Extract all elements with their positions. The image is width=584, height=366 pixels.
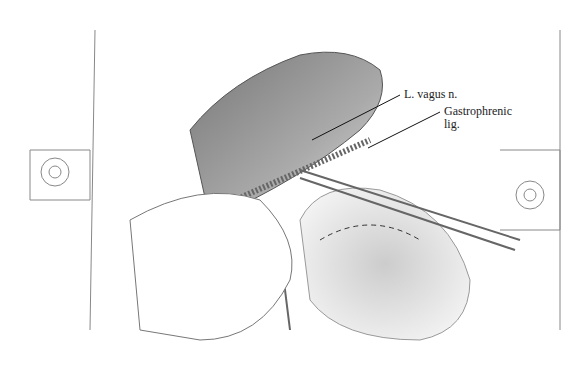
vagus-nerve-label: L. vagus n. <box>404 88 457 101</box>
illustration-drawing <box>0 0 584 366</box>
surgical-illustration: L. vagus n. Gastrophrenic lig. <box>0 0 584 366</box>
gastrophrenic-label-line2: lig. <box>444 118 460 131</box>
